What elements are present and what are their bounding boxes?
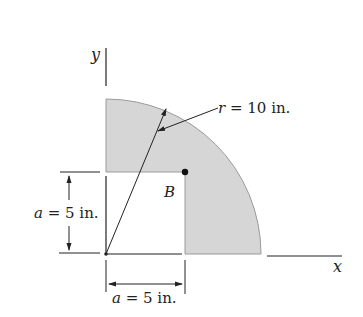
hdim-label: a = 5 in. <box>112 289 177 307</box>
radius-value: = 10 in. <box>225 99 290 117</box>
y-axis-label: y <box>90 45 101 64</box>
hdim-value: = 5 in. <box>121 289 177 307</box>
point-b-label: B <box>163 183 175 201</box>
hdim-var: a <box>112 289 121 307</box>
vdim-label: a = 5 in. <box>34 204 99 222</box>
point-b <box>182 169 188 175</box>
x-axis-label: x <box>333 257 342 276</box>
vdim-var: a <box>34 204 43 222</box>
shaded-region <box>106 99 261 254</box>
radius-label: r = 10 in. <box>218 99 290 117</box>
vdim-value: = 5 in. <box>43 204 99 222</box>
quarter-annulus-figure: y x r = 10 in. B a = 5 in. a = 5 in. <box>0 0 363 317</box>
